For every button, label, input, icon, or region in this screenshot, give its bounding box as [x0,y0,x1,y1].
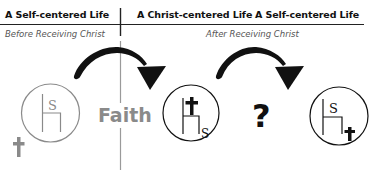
self-centered-throne-before: S [22,84,80,142]
svg-text:S: S [201,127,209,141]
diagram-graphics: S S S [0,0,377,177]
curved-arrow-icon-2 [216,47,304,90]
cross-icon-on-throne [186,97,199,115]
cross-icon-small [345,127,356,141]
svg-text:S: S [329,101,338,116]
svg-text:S: S [48,98,57,113]
self-centered-throne-after: S [310,87,368,145]
faith-label: Faith [98,104,152,126]
question-mark: ? [252,97,271,135]
cross-icon-outside [13,137,25,157]
